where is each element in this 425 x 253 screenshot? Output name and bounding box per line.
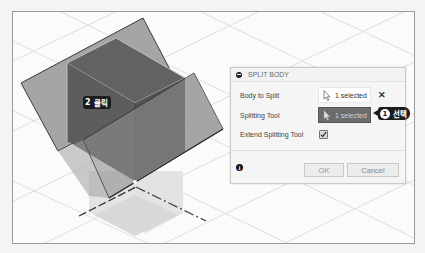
callout-step-1: 1 선택: [378, 107, 410, 120]
body-to-split-label: Body to Split: [240, 92, 279, 99]
callout-text: 선택: [393, 108, 407, 119]
splitting-tool-selector[interactable]: 1 selected: [318, 107, 371, 123]
top-strip: [0, 0, 425, 8]
callout-step-2: 2 클릭: [83, 96, 111, 109]
extend-splitting-tool-row: Extend Splitting Tool: [231, 127, 405, 141]
clear-selection-icon[interactable]: ✕: [378, 90, 386, 100]
footer-divider: [231, 150, 405, 151]
extend-splitting-tool-label: Extend Splitting Tool: [240, 131, 303, 138]
checkmark-icon: [320, 131, 327, 138]
extend-splitting-tool-checkbox[interactable]: [319, 130, 328, 139]
dialog-header[interactable]: SPLIT BODY: [231, 68, 405, 82]
callout-number: 2: [85, 98, 91, 107]
dialog-title: SPLIT BODY: [248, 71, 289, 78]
cursor-arrow-icon: [323, 90, 332, 101]
body-to-split-row: Body to Split 1 selected ✕: [231, 86, 405, 104]
splitting-tool-label: Splitting Tool: [240, 112, 280, 119]
callout-number: 1: [380, 109, 390, 119]
callout-text: 클릭: [94, 97, 108, 108]
collapse-icon[interactable]: [236, 72, 242, 78]
info-icon[interactable]: i: [236, 164, 243, 171]
ok-button[interactable]: OK: [304, 163, 344, 177]
split-body-dialog: SPLIT BODY Body to Split 1 selected ✕ Sp…: [230, 67, 406, 184]
body-to-split-selector[interactable]: 1 selected: [318, 87, 371, 103]
cancel-button[interactable]: Cancel: [347, 163, 399, 177]
cursor-arrow-icon: [323, 110, 332, 121]
splitting-tool-value: 1 selected: [335, 112, 367, 119]
body-to-split-value: 1 selected: [335, 92, 367, 99]
